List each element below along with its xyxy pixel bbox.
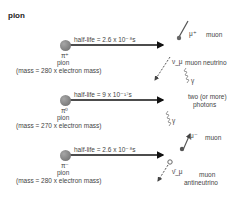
pion-mass: (mass = 270 x electron mass) (16, 122, 101, 129)
product-label: photons (193, 101, 216, 108)
product-symbol: γ (191, 77, 194, 84)
pion-mass: (mass = 280 x electron mass) (16, 67, 101, 74)
pion-minus-particle (60, 150, 71, 161)
pion-mass: (mass = 280 x electron mass) (16, 177, 101, 184)
product-symbol: ν̄_μ (172, 168, 183, 175)
product-symbol: μ⁺ (189, 30, 197, 38)
pion-name: pion (57, 169, 69, 176)
pion-name: pion (57, 114, 69, 121)
product-symbol: μ⁻ (190, 132, 198, 140)
pion-name: pion (57, 59, 69, 66)
product-symbol: ν_μ (172, 58, 183, 65)
pion-zero-particle (60, 95, 71, 106)
product-label: muon (199, 171, 215, 178)
product-label: antineutrino (184, 179, 218, 186)
half-life-label: half-life = 2.6 x 10⁻⁸s (74, 146, 135, 154)
product-label: muon (205, 134, 221, 141)
product-label: two (or more) (188, 93, 227, 100)
product-label: muon (206, 31, 222, 38)
half-life-label: half-life = 9 x 10⁻¹⁷s (74, 91, 132, 99)
half-life-label: half-life = 2.6 x 10⁻⁸s (74, 36, 135, 44)
product-label: muon neutrino (185, 59, 227, 66)
pion-plus-particle (60, 40, 71, 51)
product-symbol: γ (172, 117, 175, 124)
